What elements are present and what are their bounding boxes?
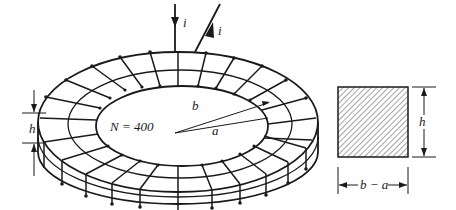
toroid-diagram: i i b a N = 400 h h [0,0,456,210]
lead-wires: i i [171,4,222,52]
wire-out [195,4,220,52]
radius-b-arrow-icon [262,101,270,106]
radius-b-label: b [192,98,199,113]
cs-height-label: h [419,114,426,129]
toroid-height-label: h [29,121,36,136]
dim-arrow-down-icon [31,104,37,112]
turns-label: N = 400 [109,119,154,134]
dim-arrow-up-icon [31,144,37,152]
cs-w-arrow-left-icon [339,182,347,188]
cs-h-arrow-down-icon [421,148,427,156]
radius-lines: b a [175,98,270,138]
radius-a-line [175,118,268,133]
radius-b-line [175,103,268,133]
current-in-label: i [183,15,187,30]
toroid [38,50,318,210]
cross-section-square [338,87,408,157]
arrow-down-icon [171,17,179,27]
cs-w-arrow-right-icon [399,182,407,188]
current-out-label: i [218,23,222,38]
cross-section: h b − a [338,87,436,194]
toroid-windings [40,52,316,210]
cs-h-arrow-up-icon [421,88,427,96]
cs-width-label: b − a [360,177,389,192]
radius-a-label: a [212,123,219,138]
